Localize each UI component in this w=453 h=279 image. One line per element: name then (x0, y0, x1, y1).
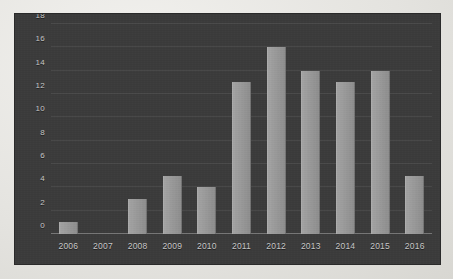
page-background: 024681012141618 200620072008200920102011… (0, 0, 453, 279)
y-axis-tick-label: 4 (40, 174, 45, 183)
y-axis-tick-label: 16 (36, 34, 46, 43)
bar-chart: 024681012141618 200620072008200920102011… (14, 13, 441, 265)
bar[interactable] (336, 82, 355, 234)
bar-group: 2007 (86, 24, 121, 234)
x-axis-tick-label: 2007 (93, 241, 113, 251)
y-axis-tick-label: 14 (36, 57, 46, 66)
y-axis-tick-label: 6 (40, 151, 45, 160)
plot-area: 024681012141618 200620072008200920102011… (51, 24, 432, 234)
x-axis-tick-label: 2006 (58, 241, 78, 251)
bar[interactable] (59, 222, 78, 234)
x-axis-tick-label: 2010 (197, 241, 217, 251)
y-axis-tick-label: 10 (36, 104, 46, 113)
y-axis-tick-label: 8 (40, 127, 45, 136)
bar-group: 2010 (190, 24, 225, 234)
bar-group: 2015 (363, 24, 398, 234)
bar-group: 2008 (120, 24, 155, 234)
x-axis-tick-label: 2016 (405, 241, 425, 251)
x-axis-tick-label: 2012 (266, 241, 286, 251)
bar-group: 2011 (224, 24, 259, 234)
x-axis-tick-label: 2008 (128, 241, 148, 251)
y-axis-tick-label: 2 (40, 197, 45, 206)
x-axis-tick-label: 2014 (336, 241, 356, 251)
bar[interactable] (163, 176, 182, 234)
y-axis-tick-label: 18 (36, 13, 46, 20)
bar-group: 2009 (155, 24, 190, 234)
x-axis-tick-label: 2015 (370, 241, 390, 251)
bar-group: 2012 (259, 24, 294, 234)
bar[interactable] (197, 187, 216, 234)
bar[interactable] (128, 199, 147, 234)
bar[interactable] (371, 71, 390, 234)
bar-group: 2016 (397, 24, 432, 234)
bar[interactable] (232, 82, 251, 234)
x-axis-tick-label: 2013 (301, 241, 321, 251)
bar[interactable] (267, 47, 286, 234)
bar[interactable] (301, 71, 320, 234)
bar[interactable] (405, 176, 424, 234)
bar-series: 2006200720082009201020112012201320142015… (51, 24, 432, 234)
y-axis-tick-label: 12 (36, 81, 46, 90)
y-axis-tick-label: 0 (40, 221, 45, 230)
x-axis-tick-label: 2011 (232, 241, 251, 251)
bar-group: 2014 (328, 24, 363, 234)
bar-group: 2013 (293, 24, 328, 234)
x-axis-tick-label: 2009 (162, 241, 182, 251)
bar-group: 2006 (51, 24, 86, 234)
